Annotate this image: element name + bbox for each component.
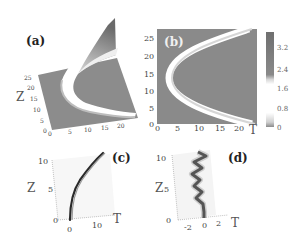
panel-b-t-tick: 15	[215, 125, 225, 133]
panel-b-z-tick: 0	[149, 121, 154, 129]
panel-b-t-tick: 0	[155, 125, 160, 133]
panel-d-z-axis-label: Z	[155, 182, 163, 194]
panel-a-z-tick: 25	[24, 74, 32, 82]
panel-b: (b) 25 20 15 10 5 0 0 5 10 15 20 T 3.2 2…	[140, 0, 303, 140]
panel-c-z-axis-label: Z	[27, 182, 35, 194]
panel-a-t-tick: 0	[48, 130, 52, 138]
colorbar-tick: 2.4	[277, 67, 288, 74]
panel-b-t-tick: 5	[175, 125, 180, 133]
panel-b-colorbar	[266, 32, 274, 127]
panel-d-plot	[150, 140, 303, 244]
colorbar-tick: 1.6	[277, 86, 288, 93]
panel-a-surface	[0, 0, 140, 140]
panel-a-t-tick: 15	[101, 124, 109, 132]
panel-a-label: (a)	[26, 35, 45, 47]
panel-c-t-tick: 0	[67, 226, 72, 234]
panel-d-t-tick: 2	[216, 220, 221, 228]
panel-a-z-axis-label: Z	[16, 91, 24, 103]
panel-a-z-tick: 20	[27, 84, 35, 92]
panel-b-z-tick: 15	[144, 71, 154, 79]
colorbar-tick: 0	[277, 125, 281, 132]
panel-a-t-tick: 10	[84, 126, 92, 134]
panel-c-label: (c)	[112, 152, 131, 164]
panel-b-z-tick: 20	[144, 53, 154, 61]
panel-b-z-tick: 10	[144, 88, 154, 96]
colorbar-tick: 0.8	[277, 106, 288, 113]
panel-d-z-tick: 0	[166, 217, 171, 225]
panel-d-t-axis-label: T	[231, 217, 239, 229]
panel-d-t-tick: -2	[184, 224, 192, 232]
panel-b-label: (b)	[164, 36, 184, 48]
panel-a-t-tick: 20	[117, 122, 125, 130]
panel-c-z-tick: 10	[38, 158, 48, 166]
panel-b-t-axis-label: T	[249, 124, 257, 136]
panel-a-z-tick: 10	[33, 106, 41, 114]
panel-a-z-tick: 0	[43, 127, 47, 135]
panel-a-z-tick: 5	[40, 117, 44, 125]
panel-d-z-tick: 5	[164, 186, 169, 194]
panel-c-t-axis-label: T	[113, 213, 121, 225]
panel-a: (a) Z 25 20 15 10 5 0 0 5 10 15 20	[0, 0, 140, 140]
panel-b-z-tick: 25	[144, 35, 154, 43]
panel-d-z-tick: 10	[156, 155, 166, 163]
panel-c-z-tick: 0	[53, 217, 58, 225]
panel-d-label: (d)	[228, 152, 248, 164]
panel-b-z-tick: 5	[149, 105, 154, 113]
panel-a-t-tick: 5	[68, 128, 72, 136]
colorbar-tick: 3.2	[277, 45, 288, 52]
panel-d-t-tick: 0	[202, 222, 207, 230]
panel-b-t-tick: 20	[234, 125, 244, 133]
panel-a-z-tick: 15	[30, 95, 38, 103]
panel-c: (c) Z 10 5 0 0 10 T	[0, 140, 150, 244]
panel-b-t-tick: 10	[194, 125, 204, 133]
panel-d: (d) Z 10 5 0 -2 0 2 T	[150, 140, 303, 244]
panel-c-z-tick: 5	[48, 186, 53, 194]
panel-c-t-tick: 10	[92, 222, 102, 230]
